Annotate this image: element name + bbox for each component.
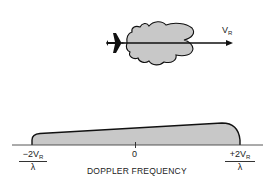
tick-right-prefix: +2V <box>230 149 246 159</box>
tick-label-zero: 0 <box>132 150 137 159</box>
doppler-spectrum-diagram: VR −2VR λ 0 +2VR λ DOPPLER FREQUENCY <box>0 0 277 184</box>
tick-left-denominator: λ <box>19 162 47 172</box>
airplane-icon <box>106 33 125 53</box>
tick-label-right: +2VR λ <box>225 150 255 172</box>
tick-left-prefix: −2V <box>23 149 39 159</box>
velocity-label: VR <box>222 25 232 36</box>
tick-left-subscript: R <box>39 154 43 160</box>
clutter-spectrum <box>32 123 240 145</box>
axis-title: DOPPLER FREQUENCY <box>87 167 187 176</box>
tick-right-numerator: +2VR <box>225 150 255 162</box>
tick-label-left: −2VR λ <box>19 150 47 172</box>
velocity-subscript: R <box>228 30 232 36</box>
tick-right-subscript: R <box>246 154 250 160</box>
tick-right-denominator: λ <box>225 162 255 172</box>
tick-left-numerator: −2VR <box>19 150 47 162</box>
velocity-arrowhead-icon <box>226 40 233 46</box>
